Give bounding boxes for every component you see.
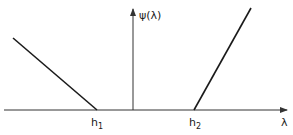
x-axis-label: λ: [281, 116, 288, 129]
h2-main: h: [189, 116, 196, 129]
h1-subscript: 1: [98, 122, 103, 131]
psi-lambda-diagram: ψ(λ) λ h1 h2: [0, 0, 293, 135]
h2-label: h2: [189, 116, 201, 131]
h2-subscript: 2: [196, 122, 201, 131]
right-branch-line: [194, 8, 251, 110]
left-branch-line: [13, 38, 97, 110]
h1-label: h1: [91, 116, 103, 131]
y-axis-label: ψ(λ): [139, 9, 161, 22]
h1-main: h: [91, 116, 98, 129]
